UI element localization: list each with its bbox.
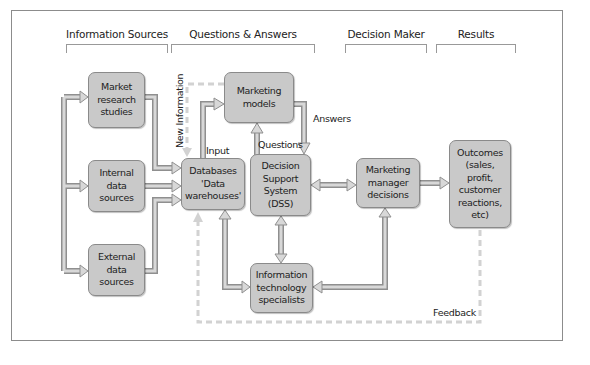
node-databases-data-warehouses: Databases 'Data warehouses' [181, 158, 245, 210]
label-feedback: Feedback [433, 307, 476, 318]
label-new-information: New Information [174, 74, 185, 148]
node-outcomes: Outcomes (sales, profit, customer reacti… [449, 140, 511, 228]
node-it-specialists: Information technology specialists [250, 263, 313, 313]
node-internal-data-sources: Internal data sources [88, 160, 145, 212]
node-marketing-models: Marketing models [224, 72, 294, 123]
label-input: Input [206, 145, 229, 156]
node-market-research-studies: Market research studies [88, 72, 145, 128]
node-external-data-sources: External data sources [88, 244, 145, 296]
label-answers: Answers [313, 113, 351, 124]
node-decision-support-system: Decision Support System (DSS) [250, 154, 311, 216]
new-info-arrowhead [182, 148, 192, 157]
feedback-arrowhead [193, 212, 203, 222]
node-marketing-manager-decisions: Marketing manager decisions [356, 158, 420, 208]
marketing-information-system-diagram: Information Sources Questions & Answers … [0, 0, 590, 365]
label-questions: Questions [258, 139, 303, 150]
